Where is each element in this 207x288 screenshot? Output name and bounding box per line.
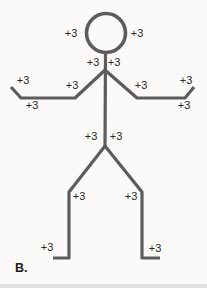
charge-label-left-hand: +3 xyxy=(17,75,30,86)
charge-label-foot-right: +3 xyxy=(149,243,162,254)
stick-figure-panel: +3+3+3+3+3+3+3+3+3+3+3+3+3+3+3+3 B. xyxy=(0,0,207,288)
charge-label-head-right: +3 xyxy=(131,28,144,39)
charge-label-hip-right: +3 xyxy=(110,131,123,142)
charge-label-head-left: +3 xyxy=(65,28,78,39)
labels-layer: +3+3+3+3+3+3+3+3+3+3+3+3+3+3+3+3 xyxy=(0,0,207,288)
charge-label-left-upper-arm: +3 xyxy=(66,80,79,91)
page-edge-divider xyxy=(0,284,207,288)
charge-label-neck-left: +3 xyxy=(87,57,100,68)
figure-caption: B. xyxy=(15,261,28,275)
charge-label-right-forearm: +3 xyxy=(178,100,191,111)
charge-label-knee-right: +3 xyxy=(125,191,138,202)
charge-label-left-forearm: +3 xyxy=(26,100,39,111)
charge-label-neck-right: +3 xyxy=(108,57,121,68)
charge-label-foot-left: +3 xyxy=(41,242,54,253)
charge-label-right-upper-arm: +3 xyxy=(135,80,148,91)
charge-label-knee-left: +3 xyxy=(73,191,86,202)
charge-label-hip-left: +3 xyxy=(85,131,98,142)
charge-label-right-hand: +3 xyxy=(180,75,193,86)
